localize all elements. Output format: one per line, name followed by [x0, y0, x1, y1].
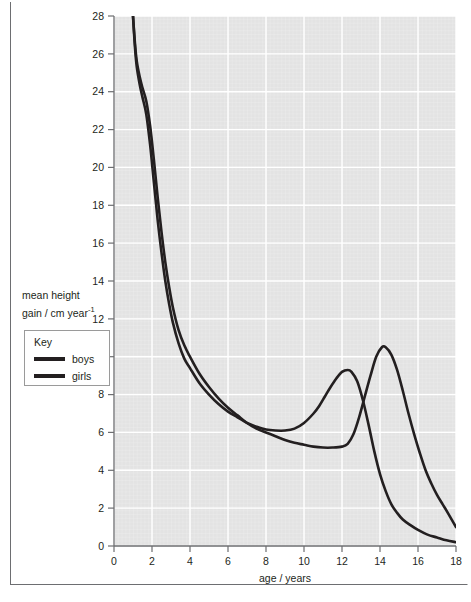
x-tick-marks: [114, 546, 456, 552]
y-tick-marks: [108, 16, 114, 546]
x-tick-labels: 0 2 4 6 8 10 12 14 16 18: [111, 555, 462, 567]
y-tick-label: 26: [92, 48, 104, 60]
legend-item-boys: boys: [34, 353, 94, 365]
x-tick-label: 14: [374, 555, 386, 567]
y-tick-label: 28: [92, 10, 104, 22]
y-tick-label: 8: [98, 388, 104, 400]
y-tick-label: 16: [92, 237, 104, 249]
legend-title: Key: [34, 336, 52, 348]
figure-container: 0 2 4 6 8 10 12 14 16 18 20 22 24 26 28 …: [0, 0, 471, 602]
legend-swatch-girls: [34, 374, 65, 377]
y-axis-title-exponent: -1: [88, 305, 95, 314]
y-axis-title-line2: gain / cm year: [22, 306, 88, 318]
y-tick-label: 2: [98, 502, 104, 514]
y-tick-label: 24: [92, 85, 104, 97]
y-tick-label: 20: [92, 161, 104, 173]
x-tick-label: 2: [149, 555, 155, 567]
legend-item-girls: girls: [34, 370, 91, 382]
y-tick-label: 6: [98, 426, 104, 438]
y-tick-label: 18: [92, 199, 104, 211]
x-axis-title: age / years: [114, 572, 456, 584]
y-tick-labels: 0 2 4 6 8 10 12 14 16 18 20 22 24 26 28: [92, 10, 104, 552]
legend: Key boys girls: [24, 330, 110, 386]
x-tick-label: 10: [298, 555, 310, 567]
x-tick-label: 0: [111, 555, 117, 567]
y-tick-label: 22: [92, 123, 104, 135]
x-tick-label: 8: [263, 555, 269, 567]
x-tick-label: 6: [225, 555, 231, 567]
x-tick-label: 16: [412, 555, 424, 567]
y-tick-label: 0: [98, 540, 104, 552]
y-axis-title-line1: mean height: [22, 289, 80, 301]
legend-label-girls: girls: [72, 370, 91, 382]
x-tick-label: 18: [450, 555, 462, 567]
y-tick-label: 4: [98, 464, 104, 476]
legend-swatch-boys: [34, 357, 65, 360]
y-tick-label: 14: [92, 275, 104, 287]
y-axis-title: mean height gain / cm year-1: [22, 288, 114, 320]
legend-label-boys: boys: [72, 353, 94, 365]
x-tick-label: 4: [187, 555, 193, 567]
x-tick-label: 12: [336, 555, 348, 567]
